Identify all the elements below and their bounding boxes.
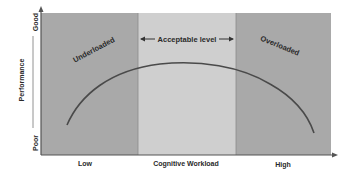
y-label-poor: Poor xyxy=(32,135,39,151)
region-underloaded xyxy=(41,13,138,155)
x-axis-arrow-icon xyxy=(332,153,338,158)
x-label-low: Low xyxy=(78,160,93,167)
x-label-high: High xyxy=(275,161,291,169)
y-axis-arrow-icon xyxy=(39,6,44,12)
x-label-title: Cognitive Workload xyxy=(153,160,219,168)
workload-performance-diagram: Acceptable level Underloaded Overloaded … xyxy=(0,0,349,178)
y-label-good: Good xyxy=(32,13,39,31)
region-overloaded xyxy=(236,13,331,155)
label-acceptable: Acceptable level xyxy=(158,35,217,44)
y-label-title: Performance xyxy=(18,58,25,101)
